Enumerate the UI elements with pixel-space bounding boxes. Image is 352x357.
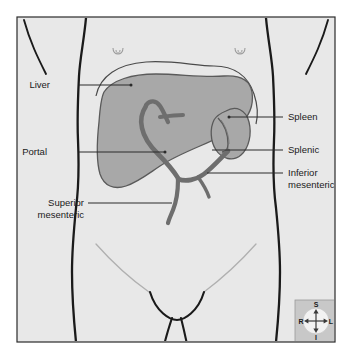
leader-dot-portal — [164, 151, 167, 154]
label-inferior-mesenteric-line1: Inferior — [288, 167, 318, 178]
leader-dot-spleen — [228, 116, 231, 119]
compass-label-inferior: I — [315, 334, 317, 341]
organ-spleen — [211, 108, 250, 158]
label-superior-mesenteric-line2: mesenteric — [38, 209, 85, 220]
label-superior-mesenteric-line1: Superior — [48, 197, 84, 208]
compass-label-right: R — [298, 318, 303, 325]
leader-dot-liver — [130, 84, 133, 87]
anatomy-diagram: Liver Portal Superior mesenteric Spleen … — [0, 0, 352, 357]
orientation-compass: S I R L — [295, 300, 337, 342]
label-splenic: Splenic — [288, 144, 319, 155]
label-inferior-mesenteric-line2: mesenteric — [288, 179, 335, 190]
label-portal: Portal — [22, 146, 47, 157]
compass-label-left: L — [329, 318, 334, 325]
vessel-hepatic-left-branch — [160, 115, 183, 117]
figure-container: Liver Portal Superior mesenteric Spleen … — [0, 0, 352, 357]
compass-label-superior: S — [314, 301, 319, 308]
label-liver: Liver — [29, 79, 50, 90]
label-spleen: Spleen — [288, 111, 318, 122]
spleen-shape — [211, 108, 250, 158]
